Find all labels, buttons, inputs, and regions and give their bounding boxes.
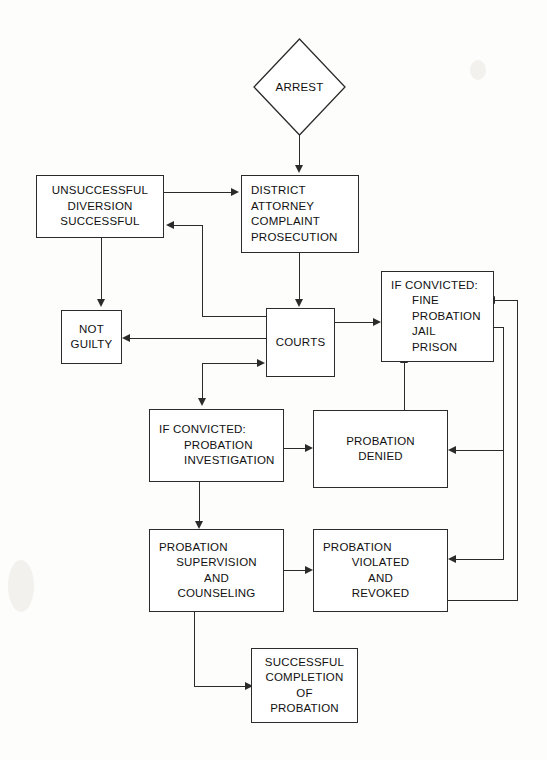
node-if-convicted-probation-line-3: INVESTIGATION <box>150 453 283 469</box>
node-arrest[interactable]: ARREST <box>253 38 346 136</box>
node-if-convicted-sentence-line-3: PROBATION <box>382 309 493 325</box>
node-successful-completion-line-1: SUCCESSFUL <box>252 655 357 671</box>
node-probation-supervision[interactable]: PROBATION SUPERVISION AND COUNSELING <box>149 529 284 612</box>
arrowhead-courts-lower-in <box>257 359 265 367</box>
arrowhead-courts-to-sentence <box>373 318 381 326</box>
node-if-convicted-sentence-line-4: JAIL <box>382 324 493 340</box>
node-successful-completion[interactable]: SUCCESSFUL COMPLETION OF PROBATION <box>251 648 358 723</box>
edge-sentence-loop-vertical <box>503 327 504 451</box>
node-if-convicted-probation-line-1: IF CONVICTED: <box>150 422 283 438</box>
arrowhead-down-to-probation-investigation <box>198 398 206 406</box>
arrowhead-arrest-to-da <box>295 165 303 173</box>
node-if-convicted-probation-line-2: PROBATION <box>150 438 283 454</box>
node-successful-completion-line-2: COMPLETION <box>252 670 357 686</box>
node-probation-violated-line-3: AND <box>314 571 447 587</box>
arrowhead-loop-to-violated <box>448 555 456 563</box>
scan-artifact <box>470 60 486 80</box>
edge-violated-loop-outer-top <box>494 300 518 301</box>
edge-investigation-to-supervision <box>199 482 200 522</box>
node-if-convicted-sentence-line-5: PRISON <box>382 340 493 356</box>
edge-courts-lower-in-horizontal <box>202 363 258 364</box>
node-probation-denied-line-1: PROBATION <box>314 434 447 450</box>
edge-diversion-to-da <box>164 192 232 193</box>
node-successful-completion-line-3: OF <box>252 686 357 702</box>
node-if-convicted-sentence-line-2: FINE <box>382 293 493 309</box>
edge-da-return-horizontal <box>174 225 203 226</box>
arrowhead-diversion-to-da <box>231 188 239 196</box>
edge-sentence-loop-bottom <box>456 450 504 451</box>
edge-diversion-to-not-guilty <box>101 238 102 300</box>
edge-courts-to-not-guilty <box>130 338 266 339</box>
node-district-attorney-line-1: DISTRICT <box>242 183 358 199</box>
edge-da-return-vertical <box>202 225 203 317</box>
node-probation-supervision-line-4: COUNSELING <box>150 586 283 602</box>
node-district-attorney-line-4: PROSECUTION <box>242 230 358 246</box>
node-probation-denied-line-2: DENIED <box>314 449 447 465</box>
node-probation-supervision-line-1: PROBATION <box>150 540 283 556</box>
node-not-guilty-line-1: NOT <box>62 322 121 338</box>
node-probation-violated-line-1: PROBATION <box>314 540 447 556</box>
node-successful-completion-line-4: PROBATION <box>252 701 357 717</box>
node-if-convicted-probation[interactable]: IF CONVICTED: PROBATION INVESTIGATION <box>149 409 284 482</box>
node-arrest-label: ARREST <box>253 81 346 93</box>
node-probation-supervision-line-2: SUPERVISION <box>150 555 283 571</box>
flowchart-canvas: ARREST UNSUCCESSFUL DIVERSION SUCCESSFUL… <box>0 0 547 760</box>
node-diversion-line-3: SUCCESSFUL <box>37 214 163 230</box>
arrowhead-investigation-to-denied <box>305 444 313 452</box>
node-not-guilty-line-2: GUILTY <box>62 337 121 353</box>
edge-courts-to-sentence <box>335 322 374 323</box>
edge-supervision-to-completion-horizontal <box>194 686 246 687</box>
node-probation-supervision-line-3: AND <box>150 571 283 587</box>
arrowhead-diversion-to-not-guilty <box>97 299 105 307</box>
node-if-convicted-sentence[interactable]: IF CONVICTED: FINE PROBATION JAIL PRISON <box>381 271 494 362</box>
edge-loop-to-violated-vertical <box>503 450 504 560</box>
edge-courts-down-to-probation-investigation <box>202 363 203 399</box>
node-not-guilty[interactable]: NOT GUILTY <box>61 310 122 364</box>
arrowhead-da-to-courts <box>295 299 303 307</box>
node-probation-denied[interactable]: PROBATION DENIED <box>313 410 448 488</box>
node-courts[interactable]: COURTS <box>266 308 335 377</box>
edge-da-to-courts <box>299 253 300 300</box>
node-diversion-line-1: UNSUCCESSFUL <box>37 183 163 199</box>
edge-loop-to-violated-horizontal <box>456 559 504 560</box>
node-probation-violated-line-4: REVOKED <box>314 586 447 602</box>
node-district-attorney-line-2: ATTORNEY <box>242 199 358 215</box>
edge-denied-up-to-sentence <box>404 362 405 410</box>
arrowhead-investigation-to-supervision <box>195 521 203 529</box>
edge-violated-loop-outer-bottom <box>448 600 518 601</box>
arrowhead-sentence-loop-to-denied <box>448 446 456 454</box>
edge-violated-loop-outer-vertical <box>517 300 518 601</box>
node-probation-violated[interactable]: PROBATION VIOLATED AND REVOKED <box>313 529 448 612</box>
arrowhead-da-return-to-diversion <box>166 221 174 229</box>
edge-investigation-to-denied <box>284 448 306 449</box>
node-diversion-line-2: DIVERSION <box>37 199 163 215</box>
edge-supervision-to-violated <box>284 570 306 571</box>
node-district-attorney[interactable]: DISTRICT ATTORNEY COMPLAINT PROSECUTION <box>241 175 359 253</box>
arrowhead-supervision-to-violated <box>305 566 313 574</box>
edge-arrest-to-da <box>299 135 300 167</box>
edge-supervision-to-completion-vertical <box>194 612 195 687</box>
node-probation-violated-line-2: VIOLATED <box>314 555 447 571</box>
node-courts-line-1: COURTS <box>267 335 334 351</box>
scan-artifact <box>8 560 34 612</box>
arrowhead-courts-to-not-guilty <box>122 334 130 342</box>
node-diversion[interactable]: UNSUCCESSFUL DIVERSION SUCCESSFUL <box>36 175 164 238</box>
node-if-convicted-sentence-line-1: IF CONVICTED: <box>382 278 493 294</box>
node-district-attorney-line-3: COMPLAINT <box>242 214 358 230</box>
edge-courts-left-join <box>202 316 266 317</box>
